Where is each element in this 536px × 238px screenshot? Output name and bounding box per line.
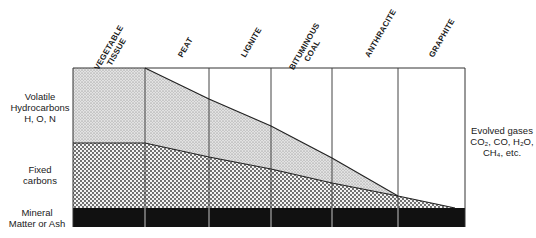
label-fixed-carbons: Fixed carbons [8, 164, 72, 186]
label-mineral-matter-ash: Mineral Matter or Ash [2, 207, 72, 229]
mineral-ash-region [73, 208, 465, 227]
coalification-diagram [0, 0, 536, 238]
label-evolved-gases: Evolved gases CO₂, CO, H₂O, CH₄, etc. [468, 125, 536, 158]
label-volatile-hydrocarbons: Volatile Hydrocarbons H, O, N [8, 91, 72, 124]
